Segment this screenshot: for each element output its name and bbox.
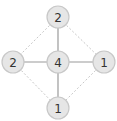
- node-label: 2: [54, 11, 62, 25]
- node-top: 2: [47, 6, 69, 28]
- node-label: 1: [54, 102, 62, 116]
- node-center: 4: [47, 51, 69, 73]
- node-label: 1: [100, 56, 108, 70]
- graph-diagram: 2 2 4 1 1: [0, 0, 117, 121]
- nodes: 2 2 4 1 1: [2, 6, 115, 119]
- node-right: 1: [93, 51, 115, 73]
- node-left: 2: [2, 51, 24, 73]
- node-label: 4: [54, 56, 62, 70]
- node-bottom: 1: [47, 97, 69, 119]
- node-label: 2: [9, 56, 17, 70]
